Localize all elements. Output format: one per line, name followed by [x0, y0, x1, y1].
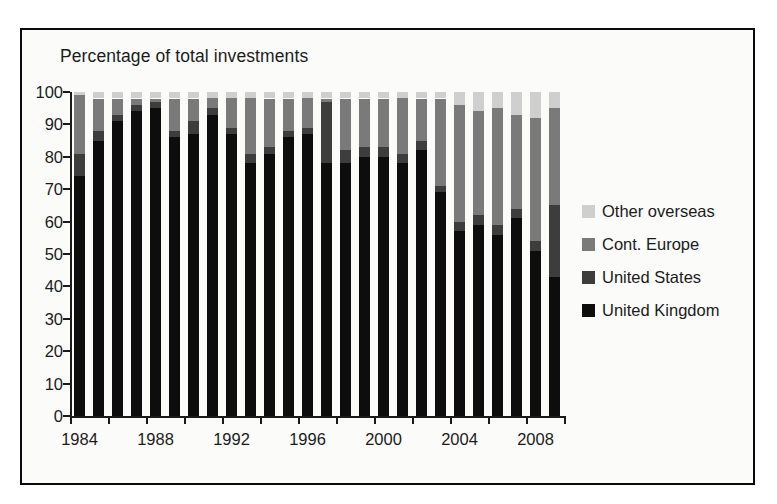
y-tick-label: 100 — [35, 83, 63, 102]
bar-column — [150, 92, 161, 416]
bar-segment — [549, 92, 560, 108]
bar-segment — [207, 108, 218, 114]
y-tick-mark — [63, 415, 70, 417]
bar-segment — [416, 92, 427, 98]
bar-column — [74, 92, 85, 416]
bar-segment — [473, 225, 484, 416]
bar-segment — [302, 98, 313, 127]
y-tick-mark — [63, 91, 70, 93]
bar-segment — [454, 222, 465, 232]
bar-segment — [397, 163, 408, 416]
chart-title: Percentage of total investments — [60, 46, 308, 67]
bar-segment — [226, 134, 237, 416]
bar-segment — [492, 235, 503, 416]
bar-segment — [283, 137, 294, 416]
bar-segment — [530, 251, 541, 416]
bar-segment — [169, 137, 180, 416]
bar-segment — [302, 92, 313, 98]
bar-segment — [492, 225, 503, 235]
bar-segment — [378, 157, 389, 416]
bar-column — [283, 92, 294, 416]
bar-segment — [74, 176, 85, 416]
bar-segment — [74, 92, 85, 95]
bar-segment — [321, 102, 332, 164]
x-tick-mark — [70, 416, 72, 424]
bar-segment — [511, 92, 522, 115]
x-tick-label: 1984 — [61, 430, 98, 449]
x-tick-label: 2000 — [365, 430, 402, 449]
legend-item: Cont. Europe — [582, 228, 752, 261]
bar-segment — [169, 92, 180, 98]
chart-legend: Other overseasCont. EuropeUnited StatesU… — [582, 195, 752, 327]
bar-segment — [169, 131, 180, 137]
bar-column — [226, 92, 237, 416]
bar-segment — [150, 102, 161, 108]
bar-segment — [359, 92, 370, 98]
legend-label: United Kingdom — [602, 301, 719, 320]
bar-segment — [511, 115, 522, 209]
bar-segment — [454, 92, 465, 105]
bar-segment — [93, 131, 104, 141]
x-tick-mark — [488, 416, 490, 424]
bar-segment — [131, 92, 142, 98]
bar-column — [454, 92, 465, 416]
bar-segment — [188, 134, 199, 416]
y-tick-mark — [63, 123, 70, 125]
y-tick-label: 80 — [45, 147, 63, 166]
bar-segment — [473, 92, 484, 111]
x-axis-line — [70, 416, 565, 418]
x-tick-mark — [412, 416, 414, 424]
y-tick-mark — [63, 285, 70, 287]
bar-segment — [416, 99, 427, 141]
x-tick-mark — [564, 416, 566, 424]
bar-segment — [549, 108, 560, 205]
y-tick-mark — [63, 253, 70, 255]
bar-segment — [169, 99, 180, 131]
chart-figure: Percentage of total investments 10090807… — [20, 28, 755, 485]
bar-column — [492, 92, 503, 416]
bar-segment — [549, 205, 560, 276]
bar-segment — [264, 99, 275, 148]
bar-segment — [340, 163, 351, 416]
bar-column — [530, 92, 541, 416]
bar-segment — [321, 163, 332, 416]
bar-segment — [93, 141, 104, 416]
bar-segment — [112, 115, 123, 121]
bar-column — [397, 92, 408, 416]
bar-segment — [283, 99, 294, 131]
bar-segment — [397, 154, 408, 164]
bar-segment — [397, 98, 408, 153]
bar-segment — [264, 154, 275, 416]
x-tick-mark — [374, 416, 376, 424]
bar-segment — [435, 186, 446, 192]
bar-column — [511, 92, 522, 416]
bar-segment — [359, 99, 370, 148]
legend-label: Other overseas — [602, 202, 715, 221]
bar-segment — [530, 241, 541, 251]
bar-segment — [378, 147, 389, 157]
bar-segment — [112, 121, 123, 416]
bar-segment — [150, 108, 161, 416]
bar-segment — [416, 141, 427, 151]
x-tick-mark — [298, 416, 300, 424]
bar-segment — [435, 92, 446, 98]
bar-column — [131, 92, 142, 416]
bar-segment — [188, 121, 199, 134]
bar-segment — [188, 92, 199, 98]
x-tick-mark — [184, 416, 186, 424]
bar-segment — [207, 92, 218, 98]
bar-segment — [530, 92, 541, 118]
x-tick-label: 1988 — [137, 430, 174, 449]
y-tick-label: 60 — [45, 212, 63, 231]
y-tick-mark — [63, 383, 70, 385]
bar-segment — [112, 92, 123, 98]
x-tick-mark — [526, 416, 528, 424]
y-tick-mark — [63, 318, 70, 320]
bar-segment — [150, 99, 161, 102]
y-tick-label: 30 — [45, 309, 63, 328]
bar-segment — [245, 163, 256, 416]
bar-column — [188, 92, 199, 416]
x-tick-label: 2004 — [441, 430, 478, 449]
bar-column — [435, 92, 446, 416]
y-tick-mark — [63, 188, 70, 190]
